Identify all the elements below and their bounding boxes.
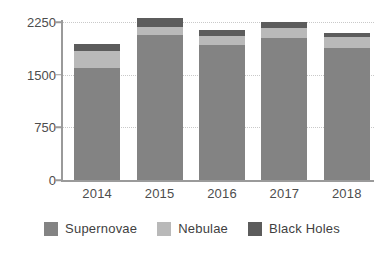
bar-segment-supernovae-2018[interactable] [324, 48, 370, 180]
legend-swatch-icon [157, 222, 171, 236]
bar-segment-nebulae-2018[interactable] [324, 37, 370, 48]
bar-segment-nebulae-2016[interactable] [199, 36, 245, 45]
bar-group-2015[interactable] [137, 18, 183, 180]
y-tick-label-750: 750 [0, 120, 56, 135]
bar-segment-supernovae-2015[interactable] [137, 35, 183, 180]
x-axis-line [61, 180, 374, 182]
x-tick-label-2015: 2015 [130, 186, 190, 201]
bar-series-layer [62, 22, 374, 180]
bar-segment-nebulae-2017[interactable] [261, 28, 307, 38]
bar-group-2017[interactable] [261, 22, 307, 180]
legend-item-supernovae[interactable]: Supernovae [44, 221, 137, 236]
bar-segment-nebulae-2014[interactable] [74, 51, 120, 68]
x-tick-label-2017: 2017 [254, 186, 314, 201]
y-tick-label-2250: 2250 [0, 15, 56, 30]
chart-legend: SupernovaeNebulaeBlack Holes [0, 221, 384, 236]
bar-group-2014[interactable] [74, 44, 120, 180]
bar-group-2016[interactable] [199, 30, 245, 180]
bar-segment-supernovae-2017[interactable] [261, 38, 307, 180]
bar-segment-supernovae-2014[interactable] [74, 68, 120, 180]
y-tick-label-1500: 1500 [0, 67, 56, 82]
legend-label: Nebulae [178, 221, 228, 236]
legend-item-nebulae[interactable]: Nebulae [157, 221, 228, 236]
legend-label: Supernovae [65, 221, 137, 236]
bar-segment-black-holes-2014[interactable] [74, 44, 120, 51]
legend-swatch-icon [44, 222, 58, 236]
x-tick-label-2016: 2016 [192, 186, 252, 201]
bar-group-2018[interactable] [324, 33, 370, 180]
stacked-bar-chart: 075015002250 20142015201620172018 Supern… [0, 0, 384, 259]
legend-swatch-icon [248, 222, 262, 236]
bar-segment-black-holes-2015[interactable] [137, 18, 183, 27]
x-tick-label-2014: 2014 [67, 186, 127, 201]
bar-segment-nebulae-2015[interactable] [137, 27, 183, 35]
bar-segment-supernovae-2016[interactable] [199, 45, 245, 180]
x-tick-label-2018: 2018 [317, 186, 377, 201]
y-tick-label-0: 0 [0, 173, 56, 188]
legend-label: Black Holes [269, 221, 340, 236]
legend-item-black-holes[interactable]: Black Holes [248, 221, 340, 236]
